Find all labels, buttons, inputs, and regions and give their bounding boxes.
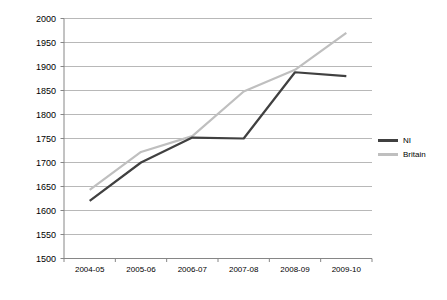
legend-item-britain: Britain — [378, 147, 444, 161]
chart-legend: NI Britain — [378, 133, 444, 161]
legend-label-britain: Britain — [403, 150, 426, 159]
y-axis-tick-label: 1900 — [16, 62, 56, 72]
legend-swatch-britain — [378, 153, 398, 156]
y-axis-tick-label: 1700 — [16, 158, 56, 168]
series-line-britain — [90, 33, 347, 190]
y-axis-tick-label: 2000 — [16, 14, 56, 24]
y-axis-tick-label: 1750 — [16, 134, 56, 144]
y-axis-tick-label: 1950 — [16, 38, 56, 48]
legend-label-ni: NI — [403, 136, 411, 145]
x-axis-tick-label: 2005-06 — [116, 265, 166, 275]
legend-item-ni: NI — [378, 133, 444, 147]
line-chart: 2000195019001850180017501700165016001550… — [0, 0, 447, 300]
y-axis-tick-label: 1500 — [16, 254, 56, 264]
legend-swatch-ni — [378, 139, 398, 142]
x-axis-tick-label: 2004-05 — [65, 265, 115, 275]
series-line-ni — [90, 72, 347, 201]
x-axis-tick-label: 2008-09 — [270, 265, 320, 275]
x-axis-tick-label: 2009-10 — [321, 265, 371, 275]
y-axis-tick-label: 1550 — [16, 230, 56, 240]
x-axis-tick-label: 2006-07 — [167, 265, 217, 275]
y-axis-tick-label: 1650 — [16, 182, 56, 192]
x-axis-tick-label: 2007-08 — [219, 265, 269, 275]
y-axis-tick-label: 1850 — [16, 86, 56, 96]
y-axis-tick-label: 1800 — [16, 110, 56, 120]
y-axis-tick-label: 1600 — [16, 206, 56, 216]
